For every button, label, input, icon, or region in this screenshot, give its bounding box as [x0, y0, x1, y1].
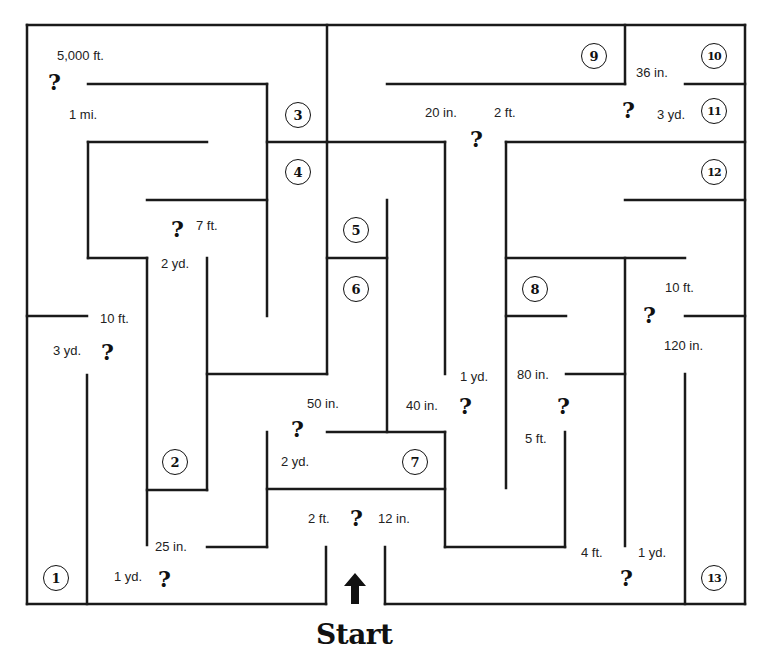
question-mark-icon: ? [291, 418, 304, 440]
maze-diagram [0, 0, 765, 665]
station-number-badge: 5 [343, 217, 369, 243]
question-mark-icon: ? [171, 218, 184, 240]
station-number-badge: 12 [701, 159, 727, 185]
distance-label: 40 in. [406, 398, 438, 413]
distance-label: 2 ft. [494, 105, 516, 120]
station-number-badge: 3 [285, 102, 311, 128]
question-mark-icon: ? [48, 71, 61, 93]
station-number-badge: 9 [581, 43, 607, 69]
distance-label: 1 yd. [460, 369, 488, 384]
station-number-badge: 13 [701, 565, 727, 591]
distance-label: 10 ft. [665, 280, 694, 295]
station-number-badge: 2 [162, 449, 188, 475]
distance-label: 7 ft. [196, 218, 218, 233]
station-number-badge: 6 [343, 276, 369, 302]
distance-label: 3 yd. [657, 107, 685, 122]
distance-label: 5,000 ft. [57, 48, 104, 63]
distance-label: 1 mi. [69, 107, 97, 122]
question-mark-icon: ? [350, 507, 363, 529]
distance-label: 2 yd. [281, 454, 309, 469]
distance-label: 120 in. [664, 338, 703, 353]
question-mark-icon: ? [620, 567, 633, 589]
station-number-badge: 8 [522, 276, 548, 302]
question-mark-icon: ? [470, 128, 483, 150]
distance-label: 80 in. [517, 367, 549, 382]
distance-label: 25 in. [155, 539, 187, 554]
distance-label: 50 in. [307, 396, 339, 411]
distance-label: 2 yd. [161, 256, 189, 271]
start-label: Start [316, 618, 392, 651]
distance-label: 3 yd. [53, 343, 81, 358]
question-mark-icon: ? [459, 395, 472, 417]
question-mark-icon: ? [557, 395, 570, 417]
station-number-badge: 4 [285, 159, 311, 185]
question-mark-icon: ? [158, 568, 171, 590]
station-number-badge: 11 [701, 98, 727, 124]
distance-label: 2 ft. [308, 511, 330, 526]
question-mark-icon: ? [643, 304, 656, 326]
distance-label: 5 ft. [525, 431, 547, 446]
start-arrow-icon [344, 573, 366, 609]
distance-label: 20 in. [425, 105, 457, 120]
question-mark-icon: ? [622, 99, 635, 121]
station-number-badge: 1 [43, 565, 69, 591]
distance-label: 4 ft. [581, 545, 603, 560]
station-number-badge: 10 [701, 43, 727, 69]
distance-label: 12 in. [378, 511, 410, 526]
distance-label: 1 yd. [114, 569, 142, 584]
distance-label: 1 yd. [638, 545, 666, 560]
question-mark-icon: ? [101, 341, 114, 363]
distance-label: 36 in. [636, 65, 668, 80]
station-number-badge: 7 [402, 449, 428, 475]
distance-label: 10 ft. [100, 311, 129, 326]
